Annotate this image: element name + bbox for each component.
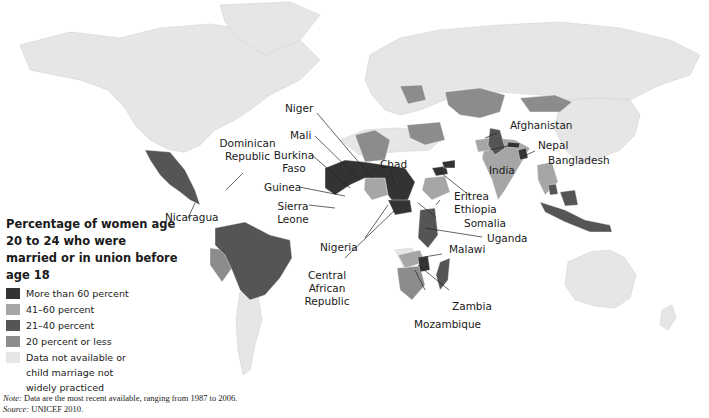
source-text: UNICEF 2010. (29, 404, 83, 414)
label-uganda: Uganda (487, 232, 528, 245)
label-somalia: Somalia (464, 217, 506, 230)
legend-item-no-data: Data not available or child marriage not… (6, 350, 206, 395)
legend-label: 20 percent or less (26, 334, 112, 349)
note-prefix: Note: (3, 393, 22, 403)
label-eritrea: Eritrea (454, 190, 489, 203)
label-guinea: Guinea (264, 181, 301, 194)
legend-swatch (6, 288, 20, 299)
label-niger: Niger (285, 102, 313, 115)
label-central-african-republic: Central African Republic (303, 269, 351, 308)
legend-item-20-or-less: 20 percent or less (6, 334, 206, 350)
footnotes: Note: Data are the most recent available… (3, 393, 237, 415)
label-nepal: Nepal (538, 139, 568, 152)
label-chad: Chad (380, 158, 407, 171)
label-zambia: Zambia (452, 300, 492, 313)
legend-item-41-60: 41–60 percent (6, 302, 206, 318)
label-mozambique: Mozambique (414, 318, 481, 331)
note-line: Note: Data are the most recent available… (3, 393, 237, 404)
legend-item-more-than-60: More than 60 percent (6, 286, 206, 302)
label-dominican-republic: Dominican Republic (215, 137, 280, 163)
legend-label: 21–40 percent (26, 318, 94, 333)
label-mali: Mali (290, 129, 311, 142)
label-bangladesh: Bangladesh (548, 154, 610, 167)
source-prefix: Source: (3, 404, 29, 414)
legend-swatch (6, 304, 20, 315)
label-malawi: Malawi (449, 243, 485, 256)
label-india: India (489, 164, 515, 177)
legend-swatch (6, 336, 20, 347)
legend-swatch (6, 320, 20, 331)
legend-label: More than 60 percent (26, 286, 129, 301)
legend-label: Data not available or child marriage not… (26, 350, 136, 395)
legend-item-21-40: 21–40 percent (6, 318, 206, 334)
legend-title: Percentage of women age 20 to 24 who wer… (6, 216, 181, 284)
label-nigeria: Nigeria (320, 241, 358, 254)
label-ethiopia: Ethiopia (454, 203, 497, 216)
source-line: Source: UNICEF 2010. (3, 404, 237, 415)
legend: More than 60 percent 41–60 percent 21–40… (6, 286, 206, 395)
legend-swatch (6, 352, 20, 363)
legend-label: 41–60 percent (26, 302, 94, 317)
note-text: Data are the most recent available, rang… (22, 393, 238, 403)
label-sierra-leone: Sierra Leone (277, 200, 309, 226)
label-afghanistan: Afghanistan (510, 119, 573, 132)
